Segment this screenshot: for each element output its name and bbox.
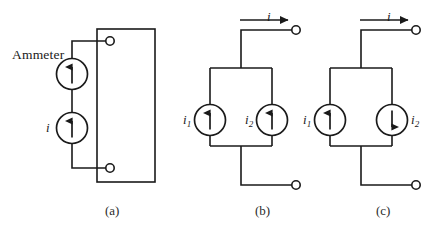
panel-a-caption: (a) (105, 203, 119, 219)
panel-c-terminal-top (412, 26, 420, 34)
panel-a-terminal-top (106, 37, 114, 45)
panel-b-drawing (195, 20, 301, 189)
circuit-drawing (0, 0, 444, 232)
panel-c-source-i2-label-sub: 2 (415, 119, 420, 129)
panel-c-source-i1-label: i1 (303, 113, 311, 129)
panel-b-source-i2-label-sub: 2 (249, 119, 254, 129)
panel-c-current-label: i (387, 10, 391, 23)
panel-a-ammeter-label: Ammeter (12, 48, 64, 62)
panel-c-terminal-bottom (412, 181, 420, 189)
panel-a-drawing (57, 29, 156, 182)
panel-a-terminal-bottom (106, 164, 114, 172)
panel-c-source-i2-label: i2 (411, 113, 419, 129)
panel-c-bottom-lead (361, 146, 412, 185)
panel-b-source-i1-label: i1 (183, 113, 191, 129)
panel-a-bottom-wire (72, 143, 106, 168)
panel-b-bottom-lead (241, 146, 292, 185)
panel-b-caption: (b) (255, 203, 270, 219)
panel-b-terminal-bottom (292, 181, 300, 189)
panel-c-drawing (315, 20, 421, 189)
panel-b-current-label: i (267, 10, 271, 23)
panel-c-top-lead (361, 30, 412, 68)
panel-b-terminal-top (292, 26, 300, 34)
circuit-figure: Ammeter i i i1 i2 i i1 i2 (a) (b) (c) (0, 0, 444, 232)
panel-c-caption: (c) (376, 203, 390, 219)
panel-a-top-wire (72, 41, 106, 58)
panel-b-source-i1-label-sub: 1 (187, 119, 192, 129)
panel-a-current-label: i (46, 121, 50, 134)
panel-c-source-i1-label-sub: 1 (307, 119, 312, 129)
panel-b-source-i2-label: i2 (245, 113, 253, 129)
panel-b-top-lead (241, 30, 292, 68)
panel-a-box (97, 29, 155, 182)
